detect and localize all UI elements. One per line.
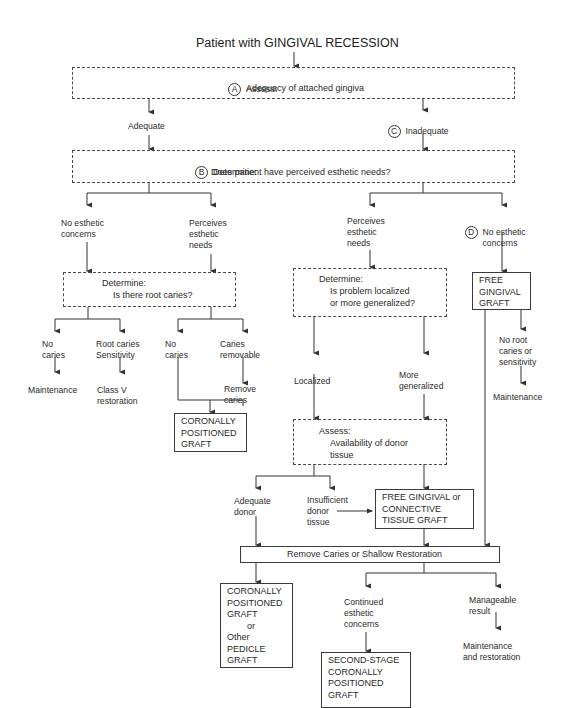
root-caries-text: Is there root caries?: [113, 290, 193, 302]
label-more-generalized: More generalized: [399, 370, 443, 392]
determine-localized-box: Determine: Is problem localized or more …: [293, 268, 447, 317]
label-root-caries-sensitivity: Root caries Sensitivity: [96, 339, 139, 361]
label-localized: Localized: [294, 376, 330, 387]
label-manageable-result: Manageable result: [469, 595, 516, 617]
label-maintenance-1: Maintenance: [28, 385, 77, 396]
coronally-positioned-or-pedicle-graft-box: CORONALLY POSITIONED GRAFT or Other PEDI…: [220, 583, 293, 668]
label-maintenance-restoration: Maintenance and restoration: [463, 641, 520, 663]
remove-caries-or-shallow-restoration-box: Remove Caries or Shallow Restoration: [240, 546, 500, 563]
marker-a-icon: A: [228, 83, 241, 96]
assess-donor-tissue-box: Assess: Availability of donor tissue: [293, 419, 447, 465]
donor-text: Availability of donor tissue: [330, 438, 408, 461]
marker-c-icon: C: [388, 125, 401, 138]
flowchart-canvas: Patient with GINGIVAL RECESSION AAssess:…: [0, 0, 573, 708]
label-d-no-esthetic: DNo esthetic concerns: [455, 216, 526, 261]
marker-b-icon: B: [195, 166, 208, 179]
second-stage-coronally-positioned-graft-box: SECOND-STAGE CORONALLY POSITIONED GRAFT: [321, 652, 411, 708]
free-gingival-or-connective-tissue-graft-box: FREE GINGIVAL or CONNECTIVE TISSUE GRAFT: [375, 489, 474, 529]
label-insufficient-donor: Insufficient donor tissue: [307, 495, 348, 529]
assess-attached-gingiva-box: AAssess: Adequacy of attached gingiva: [72, 67, 515, 99]
box-b-text: Does patient have perceived esthetic nee…: [211, 167, 391, 179]
localized-text: Is problem localized or more generalized…: [330, 286, 415, 309]
label-right-perceives: Perceives esthetic needs: [347, 216, 385, 250]
page-title: Patient with GINGIVAL RECESSION: [196, 36, 399, 50]
label-left-perceives: Perceives esthetic needs: [189, 218, 227, 252]
localized-heading: Determine:: [319, 274, 363, 286]
label-adequate: Adequate: [128, 121, 165, 132]
label-class-v-restoration: Class V restoration: [97, 385, 138, 407]
label-inadequate: CInadequate: [378, 114, 449, 149]
determine-esthetic-needs-box: BDetermine: Does patient have perceived …: [72, 150, 515, 183]
label-maintenance-2: Maintenance: [493, 392, 542, 403]
determine-root-caries-box: Determine: Is there root caries?: [63, 272, 236, 307]
marker-d-icon: D: [465, 226, 478, 239]
label-no-root-caries: No root caries or sensitivity: [499, 335, 536, 369]
label-no-caries-2: No caries: [165, 339, 188, 361]
label-remove-caries: Remove caries: [224, 384, 256, 406]
label-caries-removable: Caries removable: [220, 339, 260, 361]
label-no-caries-1: No caries: [42, 339, 65, 361]
label-continued-esthetic: Continued esthetic concerns: [344, 597, 383, 631]
label-left-no-esthetic: No esthetic concerns: [61, 218, 104, 240]
coronally-positioned-graft-box: CORONALLY POSITIONED GRAFT: [174, 413, 247, 452]
free-gingival-graft-box: FREE GINGIVAL GRAFT: [472, 272, 531, 310]
root-caries-heading: Determine:: [102, 278, 146, 290]
label-adequate-donor: Adequate donor: [234, 496, 271, 518]
box-a-text: Adequacy of attached gingiva: [246, 83, 364, 95]
donor-heading: Assess:: [319, 426, 351, 438]
